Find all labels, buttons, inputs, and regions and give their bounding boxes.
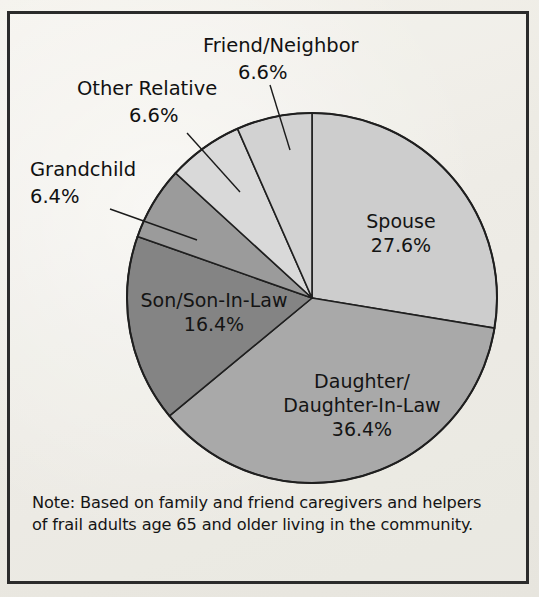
- slice-label-daughter-name-line1: Daughter/: [314, 370, 410, 392]
- callout-label-grandchild-name: Grandchild: [30, 158, 136, 181]
- callout-label-friend-neighbor-name: Friend/Neighbor: [203, 34, 360, 57]
- slice-label-spouse-name: Spouse: [366, 210, 435, 232]
- slice-label-son-name: Son/Son-In-Law: [141, 289, 288, 311]
- callout-label-other-relative-value: 6.6%: [129, 104, 179, 127]
- callout-label-friend-neighbor-value: 6.6%: [238, 61, 288, 84]
- chart-figure: Spouse 27.6% Daughter/ Daughter-In-Law 3…: [0, 0, 539, 597]
- slice-label-spouse-value: 27.6%: [371, 234, 431, 256]
- slice-label-daughter-name-line2: Daughter-In-Law: [283, 394, 440, 416]
- chart-note: Note: Based on family and friend caregiv…: [32, 492, 484, 535]
- callout-label-grandchild-value: 6.4%: [30, 185, 80, 208]
- slice-label-son-value: 16.4%: [184, 313, 244, 335]
- callout-label-other-relative-name: Other Relative: [77, 77, 217, 100]
- slice-label-daughter-value: 36.4%: [332, 418, 392, 440]
